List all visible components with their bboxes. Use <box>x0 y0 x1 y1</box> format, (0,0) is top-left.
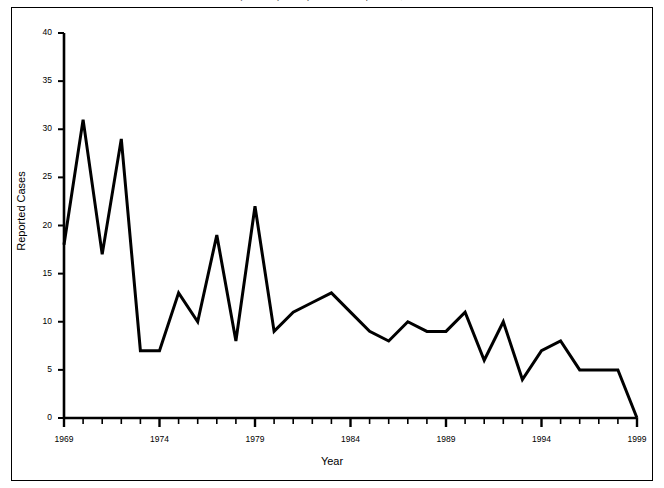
chart-axes <box>58 33 637 427</box>
y-tick-label: 10 <box>30 316 52 326</box>
y-tick-label: 30 <box>30 123 52 133</box>
y-tick-label: 20 <box>30 220 52 230</box>
y-tick-label: 35 <box>30 75 52 85</box>
chart-series <box>64 120 637 418</box>
x-tick-label: 1989 <box>426 434 466 444</box>
x-tick-label: 1984 <box>331 434 371 444</box>
y-tick-label: 15 <box>30 268 52 278</box>
chart-figure: Measles (Rubeola) — Reported Cases per Y… <box>0 0 664 488</box>
line-chart-plot <box>0 0 664 488</box>
y-tick-label: 40 <box>30 27 52 37</box>
y-tick-label: 0 <box>30 412 52 422</box>
x-tick-label: 1994 <box>522 434 562 444</box>
x-tick-label: 1979 <box>235 434 275 444</box>
y-tick-label: 25 <box>30 171 52 181</box>
data-line-reported-cases <box>64 120 637 418</box>
x-tick-label: 1999 <box>617 434 657 444</box>
x-tick-label: 1969 <box>44 434 84 444</box>
x-tick-label: 1974 <box>140 434 180 444</box>
y-tick-label: 5 <box>30 364 52 374</box>
